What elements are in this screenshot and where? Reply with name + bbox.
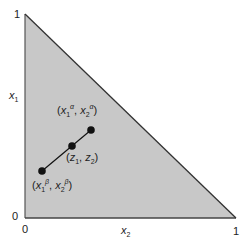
point-beta-label: (x1β, x2β) — [32, 180, 72, 191]
y-tick-0: 0 — [12, 211, 18, 222]
point-z-label: (z1, z2) — [66, 152, 98, 163]
simplex-diagram — [0, 0, 252, 246]
x-axis-label: x2 — [121, 225, 130, 236]
point-beta — [38, 167, 46, 175]
x-tick-1: 1 — [233, 226, 239, 237]
x-tick-0: 0 — [22, 224, 28, 235]
y-tick-1: 1 — [14, 9, 20, 20]
point-z — [68, 142, 76, 150]
point-alpha — [87, 126, 95, 134]
y-axis-label: x1 — [9, 90, 18, 101]
point-alpha-label: (x1α, x2α) — [57, 105, 97, 116]
